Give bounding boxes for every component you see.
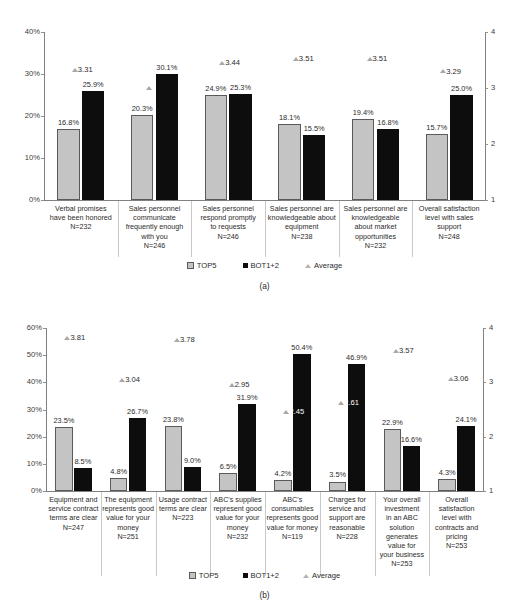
bar-top5[interactable]: [329, 482, 347, 492]
legend-b: TOP5BOT1+2Average: [0, 572, 529, 580]
bar-bot12[interactable]: [74, 468, 92, 491]
bar-value-top5: 20.3%: [125, 105, 159, 112]
y-tick-mark-left: [43, 464, 46, 465]
bar-top5[interactable]: [278, 124, 300, 200]
bar-top5[interactable]: [426, 134, 448, 200]
y-tick-mark-right: [485, 144, 488, 145]
bar-bot12[interactable]: [348, 364, 366, 491]
bar-top5[interactable]: [57, 129, 79, 200]
gray-triangle-icon: [305, 264, 311, 268]
black-square-icon: [243, 573, 248, 578]
bar-value-top5: 15.7%: [420, 124, 454, 131]
average-value-label: 2.45: [289, 408, 304, 416]
bar-value-top5: 23.5%: [49, 417, 79, 424]
bar-bot12[interactable]: [238, 404, 256, 491]
legend-item-bot1-2[interactable]: BOT1+2: [243, 262, 280, 270]
average-marker[interactable]: [146, 86, 152, 90]
bar-value-bot12: 30.1%: [150, 64, 184, 71]
y-tick-label-right: 1: [491, 196, 511, 204]
bar-top5[interactable]: [352, 119, 374, 200]
y-tick-label-left: 20%: [0, 112, 40, 120]
bar-value-top5: 19.4%: [346, 109, 380, 116]
category-label: Verbal promises have been honored N=232: [45, 204, 117, 232]
y-tick-label-right: 3: [489, 378, 509, 386]
y-tick-label-left: 10%: [0, 154, 40, 162]
bar-value-bot12: 25.0%: [444, 85, 478, 92]
bar-top5[interactable]: [438, 479, 456, 491]
y-tick-label-left: 50%: [2, 351, 42, 359]
bar-value-bot12: 8.5%: [68, 458, 98, 465]
category-label: Equipment and service contract terms are…: [47, 495, 100, 532]
bar-top5[interactable]: [131, 115, 153, 200]
y-tick-label-right: 4: [489, 324, 509, 332]
average-value-label: 3.31: [78, 66, 93, 74]
y-tick-label-left: 40%: [0, 28, 40, 36]
y-tick-label-right: 3: [491, 84, 511, 92]
gray-square-icon: [187, 262, 194, 269]
category-label: Usage contract terms are clear N=223: [157, 495, 210, 523]
y-tick-mark-left: [43, 437, 46, 438]
bar-value-bot12: 24.1%: [451, 416, 481, 423]
bar-bot12[interactable]: [293, 354, 311, 491]
bar-value-bot12: 15.5%: [297, 125, 331, 132]
category-label: Sales personnel communicate frequently e…: [119, 204, 191, 250]
y-tick-label-right: 2: [489, 433, 509, 441]
bar-bot12[interactable]: [377, 129, 399, 200]
y-tick-mark-right: [485, 88, 488, 89]
y-tick-label-left: 0%: [0, 196, 40, 204]
y-tick-label-left: 40%: [2, 378, 42, 386]
y-tick-mark-left: [43, 410, 46, 411]
bar-value-top5: 23.8%: [159, 416, 189, 423]
y-tick-mark-left: [41, 32, 44, 33]
average-value-label: 3.81: [70, 334, 85, 342]
bar-value-top5: 16.8%: [51, 119, 85, 126]
bar-bot12[interactable]: [184, 467, 202, 491]
bar-top5[interactable]: [110, 478, 128, 491]
category-label: Sales personnel respond promptly to requ…: [192, 204, 264, 241]
category-label: Overall satisfaction level with sales su…: [413, 204, 485, 241]
bar-bot12[interactable]: [403, 446, 421, 491]
legend-item-bot1-2[interactable]: BOT1+2: [243, 572, 280, 580]
bar-bot12[interactable]: [156, 74, 178, 200]
bar-top5[interactable]: [219, 473, 237, 491]
legend-label: Average: [314, 262, 342, 270]
category-label: ABC's supplies represent good value for …: [211, 495, 264, 541]
legend-a: TOP5BOT1+2Average: [0, 262, 529, 270]
category-label: Charges for service and support are reas…: [321, 495, 374, 541]
plot-area-b: 0%10%20%30%40%50%60%123423.5%8.5%3.81Equ…: [46, 328, 484, 491]
bar-bot12[interactable]: [450, 95, 472, 200]
legend-label: BOT1+2: [251, 262, 280, 270]
bar-bot12[interactable]: [457, 426, 475, 491]
bar-bot12[interactable]: [229, 94, 251, 200]
average-value-label: 3.78: [180, 336, 195, 344]
average-value-label: 3.57: [399, 347, 414, 355]
bar-bot12[interactable]: [82, 91, 104, 200]
y-tick-mark-left: [41, 116, 44, 117]
bar-bot12[interactable]: [129, 418, 147, 491]
legend-label: BOT1+2: [251, 572, 280, 580]
legend-item-average[interactable]: Average: [303, 572, 340, 580]
y-tick-mark-right: [483, 437, 486, 438]
average-value-label: 3.06: [454, 375, 469, 383]
y-tick-label-left: 30%: [0, 70, 40, 78]
bar-value-top5: 18.1%: [272, 114, 306, 121]
legend-item-average[interactable]: Average: [305, 262, 342, 270]
bar-top5[interactable]: [274, 480, 292, 491]
y-tick-mark-right: [485, 200, 488, 201]
y-tick-label-left: 10%: [2, 460, 42, 468]
bar-top5[interactable]: [205, 95, 227, 200]
y-tick-mark-left: [43, 382, 46, 383]
legend-item-top5[interactable]: TOP5: [189, 572, 219, 580]
y-tick-mark-right: [483, 491, 486, 492]
bar-bot12[interactable]: [303, 135, 325, 200]
legend-item-top5[interactable]: TOP5: [187, 262, 217, 270]
y-axis-right: [483, 328, 484, 491]
chart-panel-b: 0%10%20%30%40%50%60%123423.5%8.5%3.81Equ…: [0, 300, 529, 611]
y-tick-mark-right: [483, 328, 486, 329]
bar-value-bot12: 16.6%: [397, 436, 427, 443]
y-tick-mark-left: [41, 158, 44, 159]
panel-caption-b: (b): [0, 590, 529, 600]
bar-value-bot12: 9.0%: [178, 457, 208, 464]
bar-value-bot12: 46.9%: [342, 354, 372, 361]
y-axis-left: [46, 328, 47, 491]
